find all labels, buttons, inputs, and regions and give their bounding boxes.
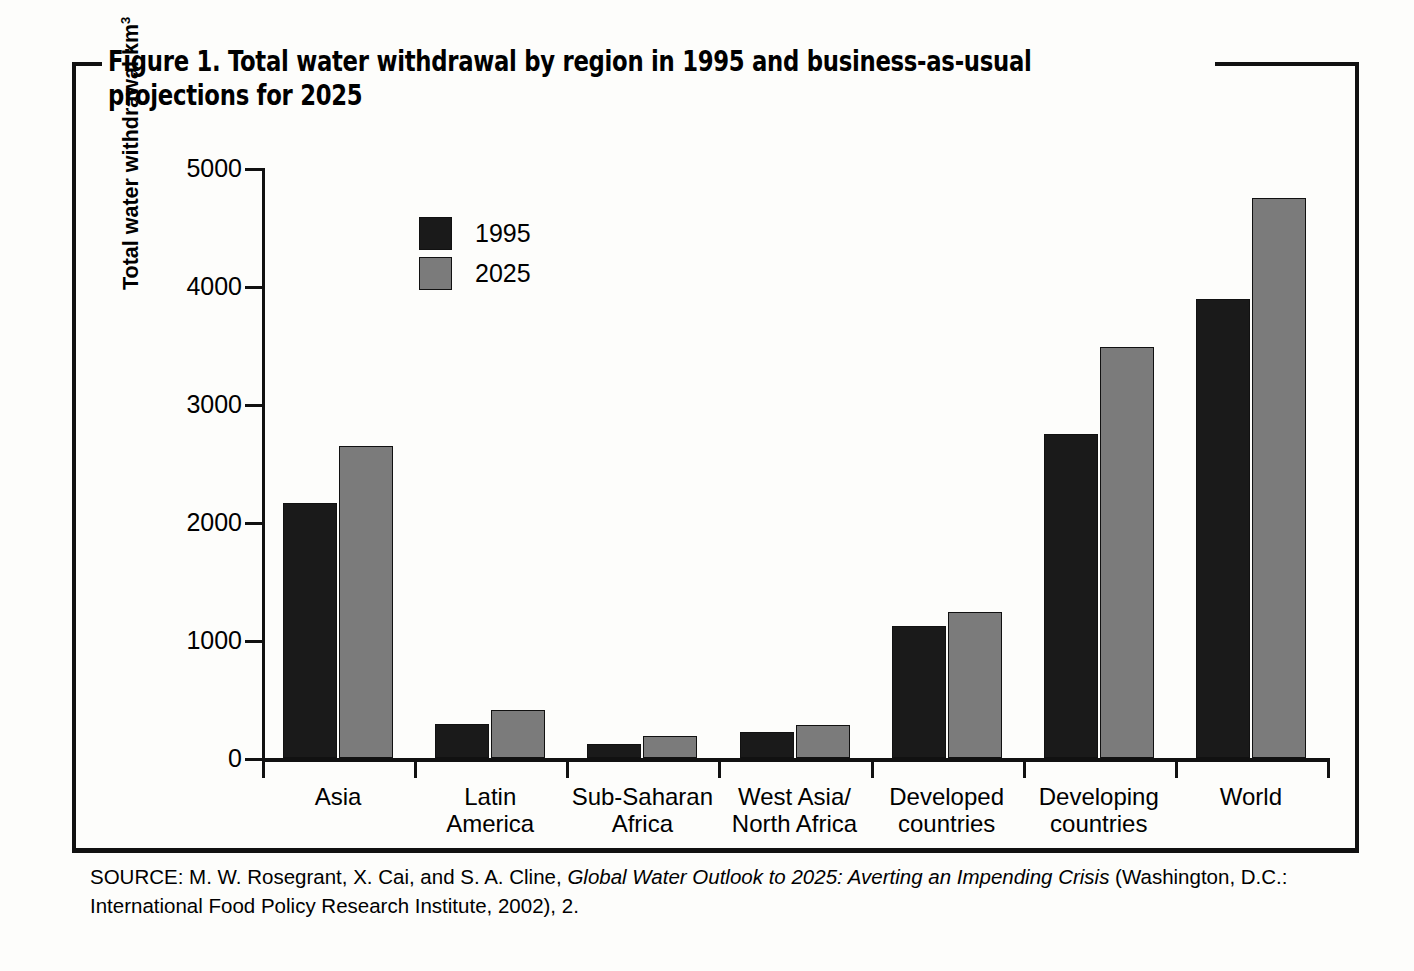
bar-2025-sub-saharan-africa (643, 736, 697, 758)
bar-1995-asia (283, 503, 337, 758)
x-axis-category-label: Developingcountries (1023, 784, 1175, 838)
x-axis-label-line: North Africa (718, 811, 870, 838)
x-axis-label-line: Latin (414, 784, 566, 811)
legend-label-2025: 2025 (475, 259, 531, 288)
x-axis-label-line: countries (1023, 811, 1175, 838)
y-axis-tick (245, 404, 262, 407)
x-axis-tick (1023, 758, 1026, 778)
legend-item-1995: 1995 (419, 213, 531, 253)
y-axis-tick (245, 640, 262, 643)
figure-source-note: SOURCE: M. W. Rosegrant, X. Cai, and S. … (90, 862, 1340, 920)
figure-frame-top-left-rule (72, 62, 102, 66)
bar-2025-developed-countries (948, 612, 1002, 758)
x-axis-category-label: West Asia/North Africa (718, 784, 870, 838)
figure-container: Figure 1. Total water withdrawal by regi… (0, 0, 1414, 971)
y-axis-tick-label: 3000 (122, 390, 242, 419)
x-axis-label-line: Developed (871, 784, 1023, 811)
bar-2025-latin-america (491, 710, 545, 758)
figure-frame-top-right-rule (1215, 62, 1359, 66)
y-axis-tick-label: 5000 (122, 154, 242, 183)
y-axis-tick-label: 1000 (122, 626, 242, 655)
bar-2025-west-asia-north-africa (796, 725, 850, 758)
y-axis-line (262, 168, 265, 758)
y-axis-tick-label: 0 (122, 744, 242, 773)
x-axis-label-line: countries (871, 811, 1023, 838)
legend-label-1995: 1995 (475, 219, 531, 248)
x-axis-tick (1175, 758, 1178, 778)
y-axis-tick (245, 758, 262, 761)
figure-title: Figure 1. Total water withdrawal by regi… (108, 44, 1129, 113)
bar-1995-west-asia-north-africa (740, 732, 794, 758)
x-axis-category-label: LatinAmerica (414, 784, 566, 838)
x-axis-category-label: Developedcountries (871, 784, 1023, 838)
x-axis-category-label: Asia (262, 784, 414, 811)
series-1995-swatch-icon (419, 217, 452, 250)
bar-1995-sub-saharan-africa (587, 744, 641, 758)
chart-legend: 1995 2025 (419, 213, 531, 293)
x-axis-tick (1327, 758, 1330, 778)
x-axis-category-label: Sub-SaharanAfrica (566, 784, 718, 838)
x-axis-tick (566, 758, 569, 778)
x-axis-tick (414, 758, 417, 778)
bar-1995-developed-countries (892, 626, 946, 758)
figure-frame-right-rule (1355, 62, 1359, 852)
x-axis-label-line: America (414, 811, 566, 838)
x-axis-label-line: Sub-Saharan (566, 784, 718, 811)
bar-1995-latin-america (435, 724, 489, 758)
y-axis-tick (245, 168, 262, 171)
x-axis-line (262, 758, 1327, 762)
x-axis-tick (718, 758, 721, 778)
y-axis-tick (245, 522, 262, 525)
x-axis-label-line: Africa (566, 811, 718, 838)
bar-2025-world (1252, 198, 1306, 759)
x-axis-tick (262, 758, 265, 778)
x-axis-label-line: World (1175, 784, 1327, 811)
source-prefix: SOURCE: M. W. Rosegrant, X. Cai, and S. … (90, 865, 567, 888)
source-title-italic: Global Water Outlook to 2025: Averting a… (567, 865, 1109, 888)
x-axis-label-line: Asia (262, 784, 414, 811)
y-axis-tick-labels: 010002000300040005000 (122, 168, 242, 758)
bar-1995-world (1196, 299, 1250, 758)
y-axis-tick-label: 2000 (122, 508, 242, 537)
x-axis-label-line: West Asia/ (718, 784, 870, 811)
figure-frame-left-rule (72, 62, 76, 852)
x-axis-category-label: World (1175, 784, 1327, 811)
x-axis-label-line: Developing (1023, 784, 1175, 811)
bar-2025-developing-countries (1100, 347, 1154, 758)
series-2025-swatch-icon (419, 257, 452, 290)
bar-1995-developing-countries (1044, 434, 1098, 759)
figure-frame-bottom-rule (72, 848, 1359, 853)
bar-2025-asia (339, 446, 393, 758)
legend-item-2025: 2025 (419, 253, 531, 293)
x-axis-tick (871, 758, 874, 778)
y-axis-tick-label: 4000 (122, 272, 242, 301)
y-axis-tick (245, 286, 262, 289)
